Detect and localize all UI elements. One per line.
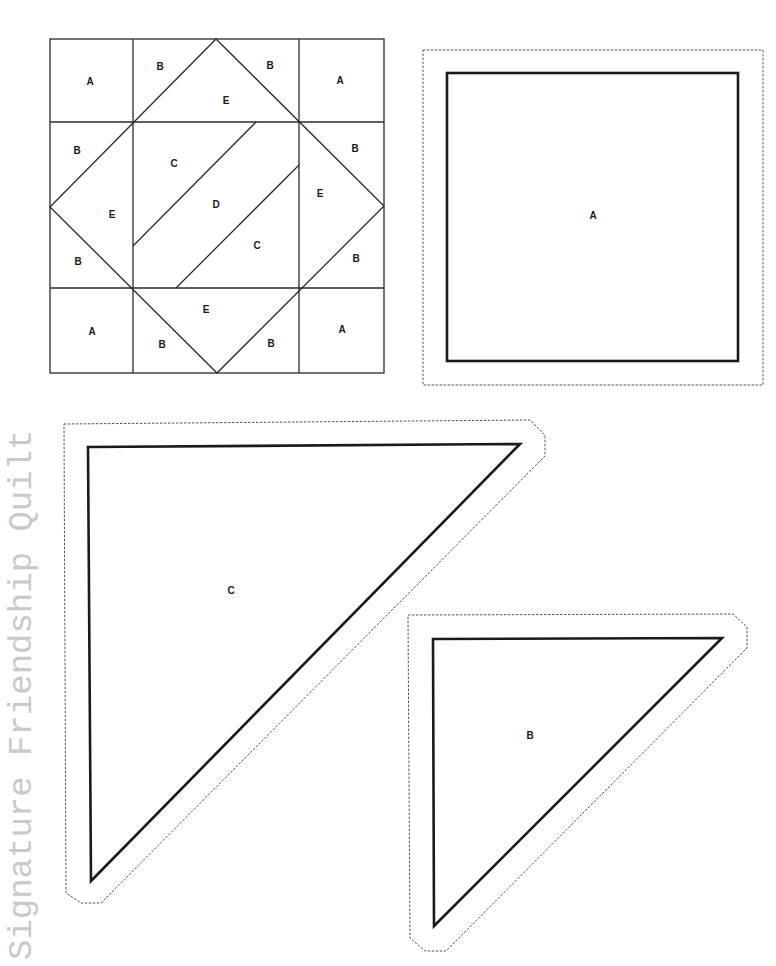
label-b-top-right: B [266,60,273,71]
label-e-left: E [109,209,116,220]
strip-line-upper [133,122,256,246]
label-a-bottom-right: A [338,324,345,335]
quilt-pattern-page: A B B A E B C B E D E C B B A E B B A A … [0,0,776,966]
template-square-a: A [423,50,763,385]
label-b-top-left: B [156,61,163,72]
label-b-bottom-left: B [158,339,165,350]
block-diagram: A B B A E B C B E D E C B B A E B B A [50,39,384,373]
label-b-left-top: B [73,145,80,156]
label-a-bottom-left: A [88,326,95,337]
label-b-right-bottom: B [352,253,359,264]
cut-line-b [433,638,722,926]
label-a-top-right: A [336,75,343,86]
label-c-lower: C [253,240,260,251]
label-e-right: E [317,188,324,199]
template-label-b: B [526,730,533,741]
label-b-left-bottom: B [74,256,81,267]
template-triangle-c: C [64,420,545,903]
label-e-top: E [223,95,230,106]
page-title: Signature Friendship Quilt [2,430,42,961]
template-triangle-b: B [408,614,747,951]
cut-line-c [88,444,520,881]
template-label-c: C [227,585,234,596]
label-c-upper: C [170,158,177,169]
label-e-bottom: E [203,304,210,315]
label-d-center: D [212,199,219,210]
template-label-a: A [589,210,596,221]
label-a-top-left: A [86,76,93,87]
label-b-right-top: B [351,143,358,154]
label-b-bottom-right: B [267,338,274,349]
